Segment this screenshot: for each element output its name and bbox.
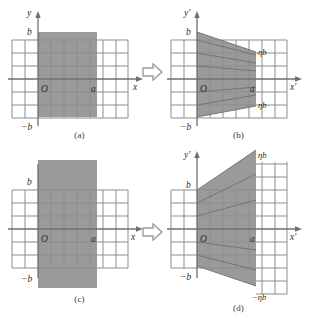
origin-label-d: O — [200, 234, 207, 244]
origin-label-c: O — [41, 234, 48, 244]
caption-b: (b) — [159, 130, 318, 140]
shaded-region-a — [38, 32, 97, 117]
y-axis-label-d: y' — [183, 150, 191, 160]
caption-a: (a) — [0, 130, 159, 140]
tick-label-a-a: a — [91, 84, 96, 94]
origin-label-a: O — [41, 84, 48, 94]
y-axis-label-a: y — [26, 8, 32, 18]
x-axis-label-a: x — [132, 82, 138, 92]
tick-label-minus-eta-b-bottom-d: −ηb — [252, 292, 266, 302]
tick-label-b-a: b — [27, 27, 32, 37]
shaded-region-b — [197, 32, 256, 117]
shaded-region-c — [38, 160, 97, 288]
tick-label-b-b: b — [186, 27, 191, 37]
panel-b: y' x' b −b O a ηb ηb (b) — [159, 0, 318, 150]
panel-a: y x b −b O a (a) — [0, 0, 159, 150]
origin-label-b: O — [200, 84, 207, 94]
caption-c: (c) — [0, 294, 159, 304]
tick-label-a-b: a — [250, 84, 255, 94]
x-axis-label-c: x — [130, 232, 136, 242]
tick-label-a-c: a — [91, 234, 96, 244]
tick-label-eta-b-top: ηb — [258, 47, 266, 57]
tick-label-b-d: b — [186, 180, 191, 190]
x-axis-label-d: x' — [289, 232, 297, 242]
panel-a-diagram: y x b −b O a — [0, 0, 159, 150]
tick-label-b-c: b — [27, 177, 32, 187]
panel-b-diagram: y' x' b −b O a ηb ηb — [159, 0, 318, 150]
tick-label-minus-b-c: −b — [21, 274, 32, 284]
caption-d: (d) — [159, 303, 318, 313]
y-axis-arrowhead-a — [35, 11, 40, 18]
x-axis-arrowhead-d — [295, 226, 302, 231]
tick-label-eta-b-bottom: ηb — [258, 100, 266, 110]
y-axis-arrowhead-b — [194, 11, 199, 18]
panel-c: x b −b O a (c) — [0, 160, 159, 320]
tick-label-minus-b-d: −b — [180, 272, 191, 282]
x-axis-arrowhead-b — [295, 76, 302, 81]
y-axis-arrowhead-d — [194, 151, 199, 158]
tick-label-a-d: a — [250, 234, 255, 244]
figure-container: y x b −b O a (a) — [0, 0, 318, 320]
x-axis-label-b: x' — [289, 82, 297, 92]
panel-d-diagram: y' x' b −b O a ηb −ηb — [159, 148, 318, 320]
y-axis-label-b: y' — [183, 8, 191, 18]
tick-label-eta-b-top-d: ηb — [258, 150, 266, 160]
panel-d: y' x' b −b O a ηb −ηb (d) — [159, 148, 318, 320]
